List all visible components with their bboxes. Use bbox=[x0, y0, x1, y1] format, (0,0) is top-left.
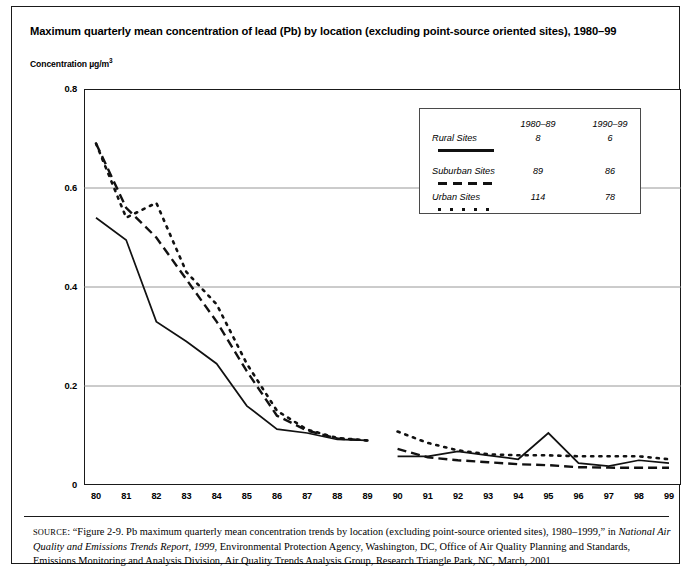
x-tick-83: 83 bbox=[175, 491, 197, 501]
x-tick-97: 97 bbox=[598, 491, 620, 501]
legend: 1980–891990–99Rural Sites86Suburban Site… bbox=[419, 108, 641, 214]
x-tick-92: 92 bbox=[447, 491, 469, 501]
legend-value-solid-1: 8 bbox=[507, 133, 569, 143]
legend-value-dashed-1: 89 bbox=[507, 166, 569, 176]
x-tick-93: 93 bbox=[477, 491, 499, 501]
x-tick-96: 96 bbox=[568, 491, 590, 501]
x-tick-87: 87 bbox=[296, 491, 318, 501]
legend-value-solid-2: 6 bbox=[579, 133, 641, 143]
source-label: SOURCE bbox=[33, 528, 67, 537]
legend-label-dashed: Suburban Sites bbox=[432, 166, 495, 176]
x-tick-89: 89 bbox=[356, 491, 378, 501]
legend-column-header-2: 1990–99 bbox=[579, 119, 641, 129]
source-text-1: : “Figure 2-9. Pb maximum quarterly mean… bbox=[67, 526, 618, 537]
x-tick-94: 94 bbox=[507, 491, 529, 501]
legend-value-dashed-2: 86 bbox=[579, 166, 641, 176]
x-tick-91: 91 bbox=[417, 491, 439, 501]
legend-swatch-dotted bbox=[438, 208, 494, 211]
series-line-rural-sites-1990-99 bbox=[398, 433, 669, 466]
y-axis-title-exponent: 3 bbox=[109, 57, 112, 64]
legend-column-header-1: 1980–89 bbox=[507, 119, 569, 129]
series-line-rural-sites-1980-89 bbox=[96, 218, 367, 441]
x-tick-85: 85 bbox=[236, 491, 258, 501]
y-axis-title-text: Concentration µg/m bbox=[30, 59, 109, 69]
legend-value-dotted-1: 114 bbox=[507, 192, 569, 202]
legend-swatch-solid bbox=[438, 149, 494, 152]
series-line-suburban-sites-1990-99 bbox=[398, 449, 669, 468]
x-tick-84: 84 bbox=[206, 491, 228, 501]
y-tick-0.2: 0.2 bbox=[43, 380, 77, 391]
figure-frame: Maximum quarterly mean concentration of … bbox=[11, 6, 680, 564]
y-tick-0.4: 0.4 bbox=[43, 281, 77, 292]
y-tick-0.8: 0.8 bbox=[43, 83, 77, 94]
x-tick-90: 90 bbox=[387, 491, 409, 501]
x-tick-98: 98 bbox=[628, 491, 650, 501]
x-tick-99: 99 bbox=[658, 491, 680, 501]
legend-swatch-dashed bbox=[438, 182, 494, 185]
y-tick-0: 0 bbox=[43, 479, 77, 490]
y-tick-0.6: 0.6 bbox=[43, 182, 77, 193]
x-tick-86: 86 bbox=[266, 491, 288, 501]
legend-label-dotted: Urban Sites bbox=[432, 192, 480, 202]
x-tick-81: 81 bbox=[115, 491, 137, 501]
x-tick-88: 88 bbox=[326, 491, 348, 501]
source-divider bbox=[24, 516, 669, 517]
x-tick-80: 80 bbox=[85, 491, 107, 501]
x-tick-95: 95 bbox=[537, 491, 559, 501]
legend-value-dotted-2: 78 bbox=[579, 192, 641, 202]
y-axis-title: Concentration µg/m3 bbox=[30, 57, 113, 69]
x-tick-82: 82 bbox=[145, 491, 167, 501]
page-title: Maximum quarterly mean concentration of … bbox=[30, 24, 660, 38]
source-note: SOURCE: “Figure 2-9. Pb maximum quarterl… bbox=[33, 525, 672, 569]
legend-label-solid: Rural Sites bbox=[432, 133, 477, 143]
